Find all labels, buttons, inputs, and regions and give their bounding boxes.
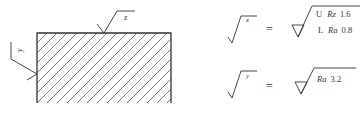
legend-row-y: y = Ra 3.2 xyxy=(228,68,356,98)
lower-parameter: Ra xyxy=(327,25,337,35)
legend-z-lower-requirement: L Ra 0.8 xyxy=(318,25,352,35)
surface-symbol-z-label: z xyxy=(124,13,128,22)
lower-limit-indicator: L xyxy=(318,25,323,35)
lower-value: 0.8 xyxy=(342,25,353,35)
y-parameter: Ra xyxy=(316,74,326,84)
legend-y-symbol xyxy=(228,71,257,98)
upper-value: 1.6 xyxy=(340,9,351,19)
legend-z-symbol xyxy=(228,16,257,43)
section-hatching xyxy=(37,33,247,115)
svg-text:U Rz 1.6: U Rz 1.6 xyxy=(316,9,351,19)
surface-symbol-y-label: y xyxy=(15,48,24,53)
legend-row-z: z = U Rz 1.6 L Ra 0.8 xyxy=(228,6,360,43)
legend-z-upper-requirement: U Rz 1.6 xyxy=(316,9,351,19)
part-section xyxy=(37,33,247,115)
legend-y-requirement: Ra 3.2 xyxy=(316,74,341,84)
legend-z-equals: = xyxy=(266,22,273,36)
surface-symbol-z xyxy=(97,11,135,33)
surface-texture-diagram: z y z = U Rz 1.6 L xyxy=(0,0,360,115)
upper-limit-indicator: U xyxy=(316,9,322,19)
legend-y-equals: = xyxy=(266,79,273,93)
y-value: 3.2 xyxy=(331,74,342,84)
legend-y-symbol-label: y xyxy=(245,72,250,80)
legend-z-symbol-label: z xyxy=(246,16,249,24)
surface-symbol-y xyxy=(11,42,37,80)
upper-parameter: Rz xyxy=(326,9,336,19)
svg-text:L Ra 0.8: L Ra 0.8 xyxy=(318,25,352,35)
